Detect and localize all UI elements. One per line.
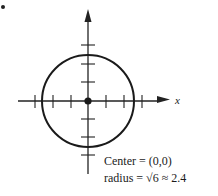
center-point bbox=[84, 97, 91, 104]
radius-annotation: radius = √6 ≈ 2.4 bbox=[104, 171, 186, 185]
radius-sqrt: √6 bbox=[146, 171, 159, 185]
radius-approx: ≈ 2.4 bbox=[159, 171, 187, 185]
center-annotation: Center = (0,0) bbox=[104, 154, 172, 168]
radius-prefix: radius = bbox=[104, 171, 146, 185]
x-axis-label: x bbox=[174, 94, 180, 106]
x-axis-arrow-icon bbox=[157, 96, 170, 103]
bullet-marker bbox=[1, 5, 5, 9]
circle-diagram: x Center = (0,0) radius = √6 ≈ 2.4 bbox=[0, 0, 218, 196]
y-axis-arrow-icon bbox=[85, 9, 92, 22]
